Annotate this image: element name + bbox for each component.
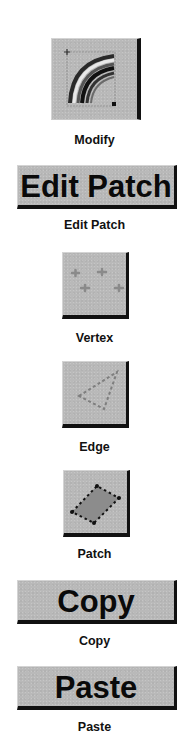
copy-button-text: Copy <box>57 586 135 617</box>
vertex-points-icon <box>63 253 126 315</box>
copy-label: Copy <box>0 633 189 649</box>
paste-button-text: Paste <box>55 672 138 703</box>
edit-patch-label: Edit Patch <box>0 217 189 233</box>
patch-button[interactable] <box>63 470 130 537</box>
edit-patch-button[interactable]: Edit Patch <box>17 165 177 209</box>
vertex-label: Vertex <box>0 330 189 346</box>
patch-label: Patch <box>0 546 189 562</box>
edge-label: Edge <box>0 439 189 455</box>
modify-label: Modify <box>0 132 189 148</box>
paste-label: Paste <box>0 719 189 733</box>
vertex-button[interactable] <box>62 252 129 319</box>
edit-patch-button-text: Edit Patch <box>20 171 172 202</box>
paste-button[interactable]: Paste <box>17 666 177 710</box>
curved-patch-icon <box>52 39 138 119</box>
copy-button[interactable]: Copy <box>17 580 177 624</box>
modify-button[interactable] <box>51 38 141 120</box>
dashed-triangle-edge-icon <box>63 362 126 424</box>
filled-quad-patch-icon <box>64 471 127 533</box>
edge-button[interactable] <box>62 361 129 428</box>
